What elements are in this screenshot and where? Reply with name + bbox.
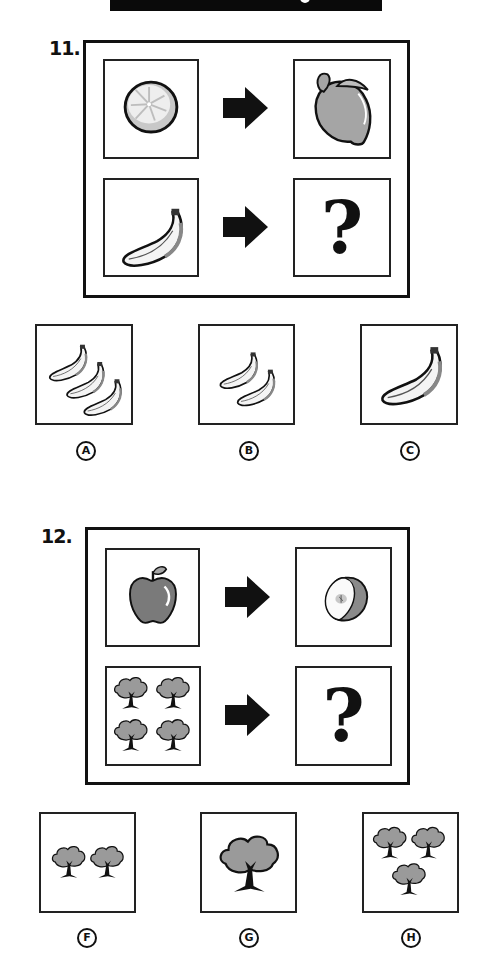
tile-apple [105,548,200,647]
page-header-bar [110,0,382,11]
option-c-tile[interactable] [360,324,458,425]
question-number: 12. [41,525,72,547]
option-g-tile[interactable] [200,812,297,913]
large-banana-icon [362,326,456,423]
question-number: 11. [49,37,80,59]
option-a-label[interactable]: A [76,441,96,461]
apple-half-icon [297,549,390,645]
tile-apple-half [295,547,392,647]
two-bananas-icon [200,326,293,423]
arrow-right-icon [225,694,270,736]
two-trees-icon [41,814,134,911]
option-g-label[interactable]: G [239,928,259,948]
large-tree-icon [202,814,295,911]
tile-banana [103,178,199,277]
apple-icon [107,550,198,645]
option-c-label[interactable]: C [400,441,420,461]
option-a-tile[interactable] [35,324,133,425]
option-h-label[interactable]: H [401,928,421,948]
arrow-right-icon [225,576,270,618]
tile-grapefruit [103,59,199,159]
lemon-icon [295,61,389,157]
unknown-answer-tile: ? [293,178,391,277]
option-h-tile[interactable] [362,812,459,913]
header-text-fragment [300,0,310,3]
three-bananas-icon [37,326,131,423]
tile-four-trees [105,666,201,766]
option-b-tile[interactable] [198,324,295,425]
arrow-right-icon [223,87,268,129]
arrow-right-icon [223,206,268,248]
banana-icon [105,180,197,275]
option-b-label[interactable]: B [239,441,259,461]
option-f-label[interactable]: F [77,928,97,948]
grapefruit-half-icon [105,61,197,157]
option-f-tile[interactable] [39,812,136,913]
tile-lemon [293,59,391,159]
unknown-answer-tile: ? [295,666,392,766]
three-trees-icon [364,814,457,911]
four-trees-icon [107,668,199,764]
